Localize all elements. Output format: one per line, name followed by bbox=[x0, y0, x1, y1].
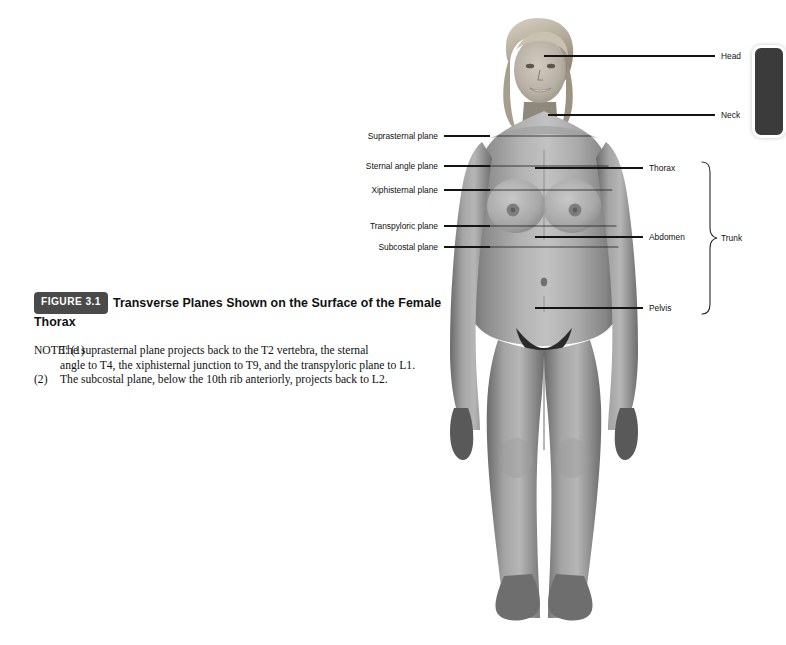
right-hand bbox=[615, 408, 638, 460]
label-transpyloric-plane: Transpyloric plane bbox=[370, 221, 438, 231]
note-lead: NOTE: bbox=[34, 344, 68, 357]
label-xiphisternal-plane: Xiphisternal plane bbox=[371, 185, 438, 195]
figure-note: NOTE: (1) The suprasternal plane project… bbox=[34, 344, 454, 388]
label-pelvis: Pelvis bbox=[649, 303, 671, 313]
annotation-neck: Neck bbox=[548, 110, 741, 120]
label-abdomen: Abdomen bbox=[649, 232, 685, 242]
note-marker-1: (1) bbox=[71, 344, 85, 357]
figure-number-badge: FIGURE 3.1 bbox=[34, 292, 108, 314]
note-item-2-text: The subcostal plane, below the 10th rib … bbox=[60, 373, 388, 386]
right-nipple bbox=[573, 208, 578, 213]
note-item-1: NOTE: (1) The suprasternal plane project… bbox=[34, 344, 454, 359]
note-item-2: (2) The subcostal plane, below the 10th … bbox=[34, 373, 454, 388]
note-marker-2: (2) bbox=[34, 373, 48, 388]
right-eye bbox=[547, 64, 555, 69]
subject-photograph bbox=[450, 18, 640, 621]
label-sternal-angle-plane: Sternal angle plane bbox=[366, 161, 439, 171]
left-knee bbox=[499, 438, 533, 478]
trunk-brace-group: Trunk bbox=[702, 162, 743, 314]
note-item-1-line-2: angle to T4, the xiphisternal junction t… bbox=[60, 359, 415, 372]
label-head: Head bbox=[721, 51, 741, 61]
navel bbox=[541, 278, 547, 286]
label-trunk: Trunk bbox=[721, 233, 743, 243]
right-foot bbox=[548, 574, 593, 621]
label-suprasternal-plane: Suprasternal plane bbox=[368, 131, 439, 141]
note-item-1-continued: angle to T4, the xiphisternal junction t… bbox=[34, 359, 454, 374]
figure-caption: FIGURE 3.1Transverse Planes Shown on the… bbox=[34, 292, 454, 388]
left-hand bbox=[450, 408, 473, 460]
edge-overlay-panel[interactable] bbox=[752, 45, 786, 138]
left-foot bbox=[495, 574, 540, 621]
note-item-1-line-1: The suprasternal plane projects back to … bbox=[60, 344, 369, 357]
label-neck: Neck bbox=[721, 110, 741, 120]
annotation-head: Head bbox=[544, 51, 741, 61]
left-eye bbox=[526, 64, 534, 69]
trunk-brace bbox=[702, 162, 717, 314]
annotation-suprasternal-plane: Suprasternal plane bbox=[368, 131, 490, 141]
label-thorax: Thorax bbox=[649, 163, 676, 173]
right-knee bbox=[555, 438, 589, 478]
caption-heading: FIGURE 3.1Transverse Planes Shown on the… bbox=[34, 292, 454, 330]
label-subcostal-plane: Subcostal plane bbox=[378, 242, 438, 252]
left-nipple bbox=[511, 208, 516, 213]
note-item-1-marker: NOTE: (1) bbox=[34, 344, 85, 359]
